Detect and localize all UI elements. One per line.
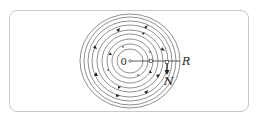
radius-label: R: [181, 55, 190, 68]
center-label: 0: [121, 56, 127, 67]
normal-vector-label: N: [163, 75, 174, 88]
radius-line: [129, 60, 180, 76]
inner-point-marker: [150, 60, 153, 63]
center-point: [129, 60, 132, 63]
outer-point-marker: [166, 61, 169, 64]
concentric-field-diagram: 0 R N: [0, 0, 256, 123]
